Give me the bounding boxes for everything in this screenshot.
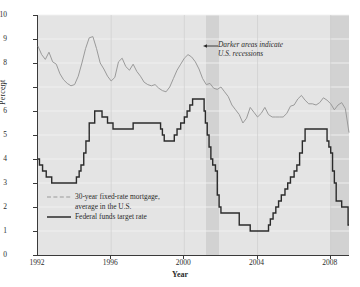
solid-line-icon [47,212,71,221]
series-line-mortgage [38,37,349,133]
y-tick-label: 6 [0,107,7,115]
y-tick-label: 0 [0,251,7,259]
x-tick-label: 2004 [249,258,264,267]
chart-figure: Percent 01234567891019921996200020042008… [0,0,360,287]
legend-label-mortgage-line1: 30-year fixed-rate mortgage, [75,192,160,201]
y-tick-label: 7 [0,83,7,91]
recession-annotation: Darker areas indicate U.S. recessions [218,40,283,59]
x-tick-label: 1992 [30,258,45,267]
annotation-line-1: Darker areas indicate [218,40,283,49]
x-tick-label: 2000 [176,258,191,267]
y-tick-label: 10 [0,11,7,19]
legend-item-mortgage: 30-year fixed-rate mortgage, average in … [47,192,160,211]
y-tick-label: 1 [0,227,7,235]
legend-label-fedfunds: Federal funds target rate [75,212,147,222]
y-tick-label: 3 [0,179,7,187]
x-axis-title: Year [0,270,360,279]
y-tick-label: 5 [0,131,7,139]
y-tick-label: 4 [0,155,7,163]
x-tick-label: 1996 [103,258,118,267]
legend-label-mortgage-line2: average in the U.S. [75,202,131,211]
annotation-arrow-icon [203,43,219,49]
annotation-line-2: U.S. recessions [218,49,283,58]
legend-label-mortgage: 30-year fixed-rate mortgage, average in … [75,192,160,211]
x-tick-label: 2008 [322,258,337,267]
y-tick-label: 8 [0,59,7,67]
chart-legend: 30-year fixed-rate mortgage, average in … [47,192,160,223]
y-tick-label: 2 [0,203,7,211]
dashed-line-icon [47,192,71,201]
y-tick-label: 9 [0,35,7,43]
legend-item-fedfunds: Federal funds target rate [47,212,160,222]
